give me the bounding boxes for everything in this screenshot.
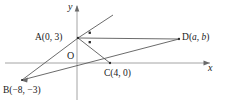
point-label-A: A(0, 3) [35,33,62,43]
segment-AD [78,38,179,39]
y-axis-arrowhead [75,5,80,12]
segment-BD [22,39,179,80]
point-A-dot [77,37,79,39]
x-axis-label: x [208,63,212,73]
point-label-C: C(4, 0) [104,69,131,79]
geometry-figure: A(0, 3) B(−8, −3) C(4, 0) D(a, b) O y x [0,0,232,105]
point-label-D-text: D [182,32,189,42]
segment-AC [78,38,110,63]
point-B-dot [21,79,23,81]
point-C-dot [109,62,111,64]
angle-marker-dot-lower [89,41,91,43]
origin-label: O [67,51,74,61]
point-label-D: D(a, b) [182,33,209,43]
ray-from-A [78,15,113,38]
point-label-B: B(−8, −3) [3,86,41,96]
point-label-D-coord-a: a [192,32,197,42]
y-axis-label: y [68,2,72,12]
point-D-dot [178,38,180,40]
point-label-D-coord-b: b [202,32,207,42]
angle-marker-dot-upper [89,32,91,34]
